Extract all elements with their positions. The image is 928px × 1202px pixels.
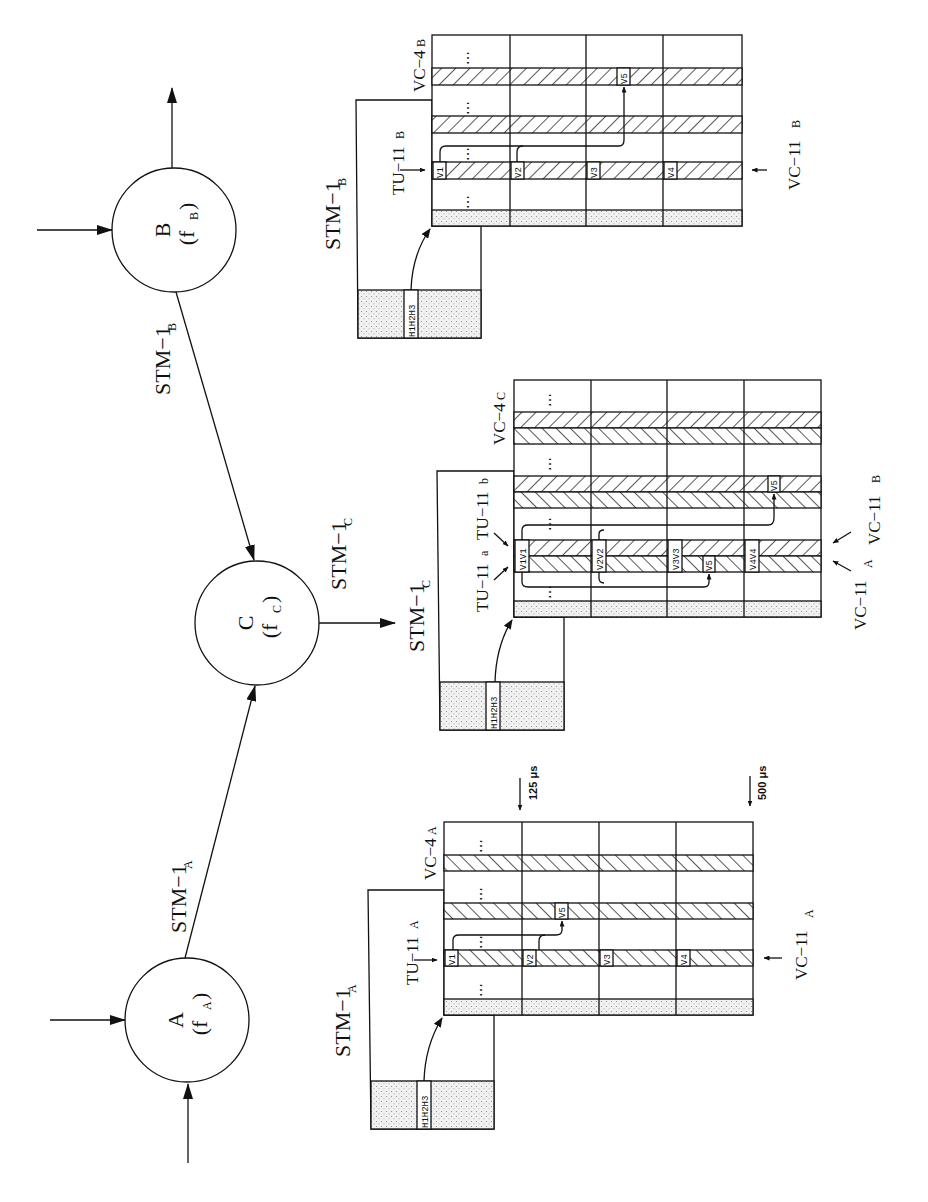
svg-text:TU−11: TU−11 [389, 146, 408, 195]
frame-a-v1-label: V1 [448, 954, 458, 965]
svg-text:500 μs: 500 μs [756, 766, 768, 800]
node-b-freq-sub: B [187, 212, 201, 220]
frame-period-label: 125 μs [527, 766, 539, 800]
frame-c-vc11-a-arrow [833, 561, 851, 571]
node-a-freq: (f [187, 1020, 212, 1035]
frame-c-vc11-b-label: VC−11 B [865, 475, 884, 545]
frame-a-v3-label: V3 [603, 954, 613, 965]
frame-b-v3-label: V3 [590, 167, 600, 178]
frame-c: H1H2H3 V1V1 V2V2 V3V3 V4V4 V5 V5 ⋯ [404, 380, 884, 730]
frame-a-stm-label: STM−1 A [330, 984, 359, 1057]
frame-a-v2-label: V2 [526, 954, 536, 965]
svg-text:⋯: ⋯ [543, 457, 558, 471]
node-c: C (f C ) [195, 561, 395, 685]
frame-b-v4-label: V4 [667, 167, 677, 178]
frame-c-v4-label: V4V4 [749, 548, 759, 570]
svg-text:STM−1: STM−1 [166, 864, 191, 933]
svg-text:TU−11: TU−11 [473, 563, 492, 612]
node-b-freq: (f [174, 230, 199, 245]
frame-b-vc11-label: VC−11 B [785, 120, 804, 190]
svg-text:VC−11: VC−11 [865, 495, 884, 545]
svg-text:VC−4: VC−4 [410, 50, 429, 92]
frame-c-v1-label: V1V1 [519, 548, 529, 570]
frame-a-vc4-label: VC−4 A [421, 826, 440, 880]
svg-text:A: A [345, 984, 359, 993]
frame-a-vc11-label: VC−11 A [792, 909, 816, 980]
svg-text:B: B [165, 323, 179, 331]
svg-text:STM−1: STM−1 [150, 326, 175, 395]
frame-b-stm-label: STM−1 B [320, 178, 349, 250]
svg-text:STM−1: STM−1 [326, 521, 351, 590]
frame-a: H1H2H3 V1 V2 V3 V4 V5 ⋯ ⋯ ⋯ ⋯ STM−1 [330, 766, 816, 1129]
svg-text:⋯: ⋯ [461, 51, 476, 65]
svg-text:B: B [335, 178, 349, 186]
frame-c-soh [440, 682, 564, 730]
svg-text:VC−11: VC−11 [792, 930, 811, 980]
label-stm1-a-link: STM−1 A [166, 860, 195, 933]
svg-text:B: B [789, 120, 803, 128]
svg-text:a: a [477, 550, 491, 556]
frame-c-v5-b-label: V5 [770, 480, 780, 491]
node-b: B (f B ) [37, 88, 236, 292]
label-stm1-c-out: STM−1 C [326, 518, 355, 590]
svg-text:C: C [494, 392, 508, 400]
node-c-freq-sub: C [270, 605, 284, 613]
svg-text:⋯: ⋯ [543, 585, 558, 599]
svg-text:VC−4: VC−4 [421, 838, 440, 880]
frame-c-stm-label: STM−1 C [404, 580, 433, 652]
svg-text:A: A [802, 909, 816, 918]
frame-b-poh-row [432, 210, 742, 226]
diagram-canvas: B (f B ) C (f C ) A (f A ) STM [0, 0, 928, 1202]
svg-text:VC−4: VC−4 [490, 403, 509, 445]
label-stm1-b-link: STM−1 B [150, 323, 179, 395]
frame-a-v5-label: V5 [558, 907, 568, 918]
svg-text:125 μs: 125 μs [527, 766, 539, 800]
frame-b-band-3 [432, 68, 742, 85]
multiframe-period-label: 500 μs [756, 766, 768, 800]
svg-text:A: A [861, 559, 875, 568]
link-b-to-c [176, 292, 254, 560]
svg-text:VC−11: VC−11 [785, 140, 804, 190]
frame-b-v5-label: V5 [620, 73, 630, 84]
node-b-freq-close: ) [174, 203, 199, 210]
frame-b-v2-label: V2 [514, 167, 524, 178]
node-a-name: A [163, 1012, 188, 1028]
svg-text:A: A [181, 860, 195, 869]
svg-text:B: B [393, 131, 407, 139]
frame-c-v5-a-label: V5 [705, 560, 715, 571]
frame-b-band-2 [432, 116, 742, 133]
svg-text:A: A [407, 920, 421, 929]
frame-c-v2-label: V2V2 [596, 548, 606, 570]
frame-c-vc4-label: VC−4 C [490, 392, 509, 445]
svg-text:C: C [419, 580, 433, 588]
svg-text:⋯: ⋯ [474, 887, 489, 901]
frame-a-v4-label: V4 [680, 954, 690, 965]
node-c-freq: (f [257, 623, 282, 638]
frame-a-soh [371, 1081, 494, 1129]
svg-text:⋯: ⋯ [461, 101, 476, 115]
svg-text:C: C [341, 518, 355, 526]
svg-text:A: A [425, 826, 439, 835]
svg-text:STM−1: STM−1 [320, 181, 345, 250]
node-b-name: B [150, 223, 175, 238]
svg-text:⋯: ⋯ [461, 195, 476, 209]
node-c-freq-close: ) [257, 596, 282, 603]
svg-text:TU−11: TU−11 [473, 491, 492, 540]
frame-c-pointer-label: H1H2H3 [490, 697, 500, 729]
frame-b-vc4-label: VC−4 B [410, 39, 429, 92]
frame-c-vc11-a-label: VC−11 A [851, 559, 875, 630]
svg-text:⋯: ⋯ [474, 935, 489, 949]
svg-text:STM−1: STM−1 [330, 988, 355, 1057]
svg-text:STM−1: STM−1 [404, 583, 429, 652]
svg-text:⋯: ⋯ [474, 983, 489, 997]
svg-text:B: B [414, 39, 428, 47]
frame-b-v1-label: V1 [436, 167, 446, 178]
svg-text:B: B [869, 475, 883, 483]
frame-b-pointer-label: H1H2H3 [408, 305, 418, 337]
node-a: A (f A ) [50, 958, 249, 1163]
svg-text:⋯: ⋯ [474, 839, 489, 853]
svg-text:VC−11: VC−11 [851, 580, 870, 630]
svg-text:⋯: ⋯ [543, 517, 558, 531]
node-c-name: C [233, 616, 258, 631]
frame-b-soh [358, 290, 481, 338]
